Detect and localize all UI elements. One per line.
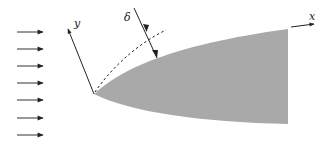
body-shape xyxy=(94,29,288,124)
thickness-arrowhead-upper xyxy=(143,24,149,32)
flow-arrows xyxy=(17,32,43,135)
y-axis-label: y xyxy=(74,18,80,29)
thickness-label: δ xyxy=(124,12,131,23)
thickness-arrowhead-lower xyxy=(152,50,158,58)
x-axis-label: x xyxy=(309,11,315,22)
y-axis xyxy=(68,29,94,94)
boundary-layer-diagram xyxy=(0,0,331,143)
x-axis xyxy=(291,24,314,27)
